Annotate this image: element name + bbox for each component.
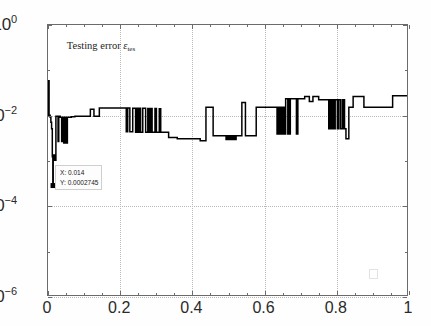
x-tick-label: 0.4 bbox=[180, 299, 202, 317]
y-tick-mark bbox=[48, 206, 52, 207]
x-tick-minor bbox=[192, 25, 193, 27]
x-tick-minor bbox=[391, 25, 392, 27]
x-tick-minor bbox=[210, 25, 211, 27]
x-tick-minor bbox=[319, 25, 320, 27]
x-tick-minor bbox=[301, 25, 302, 27]
x-tick-minor bbox=[84, 25, 85, 27]
x-tick-minor bbox=[174, 25, 175, 27]
x-tick-minor bbox=[247, 293, 248, 295]
x-tick-minor bbox=[66, 25, 67, 27]
x-tick-mark bbox=[337, 25, 338, 29]
y-tick-mark bbox=[48, 297, 52, 298]
y-tick-label: 10−2 bbox=[0, 104, 17, 126]
x-tick-label: 1 bbox=[404, 299, 413, 317]
x-tick-mark bbox=[265, 291, 266, 295]
x-tick-label: 0.6 bbox=[252, 299, 274, 317]
data-line-testing-error bbox=[48, 25, 407, 295]
x-tick-minor bbox=[156, 293, 157, 295]
x-tick-minor bbox=[373, 293, 374, 295]
x-tick-minor bbox=[102, 293, 103, 295]
x-tick-mark bbox=[120, 25, 121, 29]
x-tick-minor bbox=[373, 25, 374, 27]
x-tick-label: 0 bbox=[43, 299, 52, 317]
x-tick-minor bbox=[210, 293, 211, 295]
y-tick-mark bbox=[48, 116, 52, 117]
y-tick-minor bbox=[405, 252, 407, 253]
x-tick-minor bbox=[301, 293, 302, 295]
x-tick-minor bbox=[84, 293, 85, 295]
x-tick-minor bbox=[283, 25, 284, 27]
x-tick-minor bbox=[138, 293, 139, 295]
data-cursor-y-value: Y: 0.0002745 bbox=[60, 178, 98, 187]
y-tick-label: 10−4 bbox=[0, 195, 17, 217]
data-cursor-square-marker[interactable] bbox=[369, 269, 378, 279]
y-tick-minor bbox=[405, 161, 407, 162]
x-tick-minor bbox=[138, 25, 139, 27]
x-tick-label: 0.8 bbox=[325, 299, 347, 317]
x-tick-minor bbox=[355, 293, 356, 295]
y-tick-mark bbox=[48, 25, 52, 26]
plot-area bbox=[47, 24, 408, 296]
x-tick-mark bbox=[409, 25, 410, 29]
x-tick-minor bbox=[229, 293, 230, 295]
x-tick-mark bbox=[48, 291, 49, 295]
x-tick-minor bbox=[283, 293, 284, 295]
x-tick-mark bbox=[409, 291, 410, 295]
y-tick-mark bbox=[403, 297, 407, 298]
x-tick-minor bbox=[319, 293, 320, 295]
x-tick-minor bbox=[229, 25, 230, 27]
data-cursor-tooltip[interactable]: X: 0.014 Y: 0.0002745 bbox=[55, 165, 102, 190]
x-tick-minor bbox=[174, 293, 175, 295]
y-tick-minor bbox=[48, 161, 50, 162]
y-tick-minor bbox=[405, 70, 407, 71]
y-tick-mark bbox=[403, 25, 407, 26]
y-tick-label: 100 bbox=[0, 13, 17, 35]
figure-canvas: Testing error εtes X: 0.014 Y: 0.0002745… bbox=[0, 0, 431, 326]
plot-title: Testing error εtes bbox=[67, 40, 135, 53]
x-tick-minor bbox=[192, 293, 193, 295]
x-tick-minor bbox=[247, 25, 248, 27]
x-tick-minor bbox=[102, 25, 103, 27]
x-tick-mark bbox=[337, 291, 338, 295]
y-tick-mark bbox=[403, 206, 407, 207]
x-tick-mark bbox=[265, 25, 266, 29]
gridline-y bbox=[48, 297, 407, 298]
x-tick-minor bbox=[355, 25, 356, 27]
x-tick-minor bbox=[391, 293, 392, 295]
plot-title-text: Testing error bbox=[67, 40, 123, 51]
x-tick-label: 0.2 bbox=[108, 299, 130, 317]
y-tick-minor bbox=[48, 70, 50, 71]
x-tick-mark bbox=[120, 291, 121, 295]
y-tick-mark bbox=[403, 116, 407, 117]
x-tick-minor bbox=[66, 293, 67, 295]
plot-title-subscript: tes bbox=[127, 45, 135, 53]
y-tick-label: 10−6 bbox=[0, 285, 17, 307]
data-cursor-x-value: X: 0.014 bbox=[60, 168, 98, 177]
x-tick-minor bbox=[156, 25, 157, 27]
y-tick-minor bbox=[48, 252, 50, 253]
